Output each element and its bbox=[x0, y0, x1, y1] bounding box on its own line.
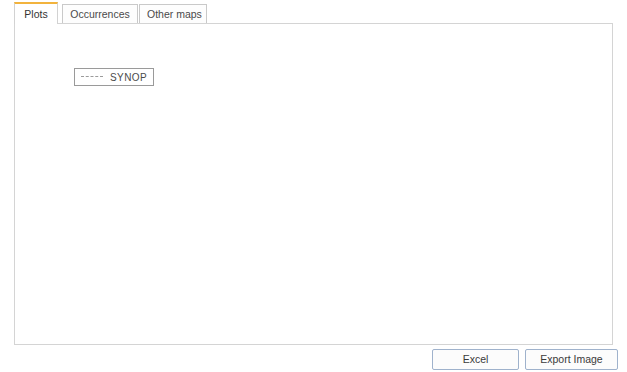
legend-line-swatch bbox=[81, 76, 103, 78]
legend-label-synop: SYNOP bbox=[110, 72, 147, 83]
export-image-button[interactable]: Export Image bbox=[525, 349, 618, 370]
chart-legend: SYNOP bbox=[74, 68, 154, 86]
tab-plots[interactable]: Plots bbox=[14, 2, 58, 24]
action-button-bar: Excel Export Image bbox=[0, 349, 627, 372]
active-tab-notch bbox=[15, 22, 57, 25]
excel-button[interactable]: Excel bbox=[432, 349, 519, 370]
